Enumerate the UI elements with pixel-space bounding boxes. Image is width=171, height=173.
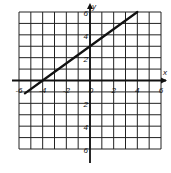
x-tick-label: -2 [63,86,71,95]
y-axis-label: y [91,2,97,11]
y-tick-label: 6 [84,9,89,18]
y-tick-label: 4 [84,32,89,41]
y-tick-label: 4 [84,123,89,132]
x-axis-label: x [162,68,168,77]
x-tick-label: -6 [15,86,23,95]
y-tick-label: 6 [84,146,89,155]
y-tick-label: 2 [83,55,89,64]
x-tick-label: 4 [135,86,140,95]
coordinate-plane: xy -6-4-20246642246 [0,0,171,173]
y-tick-label: 2 [83,100,89,109]
x-tick-label: 2 [110,86,116,95]
axes: xy [12,2,168,163]
x-tick-label: 6 [159,86,164,95]
x-tick-label: 0 [89,86,94,95]
x-tick-label: -4 [39,86,47,95]
x-axis-arrow-icon [161,78,167,84]
